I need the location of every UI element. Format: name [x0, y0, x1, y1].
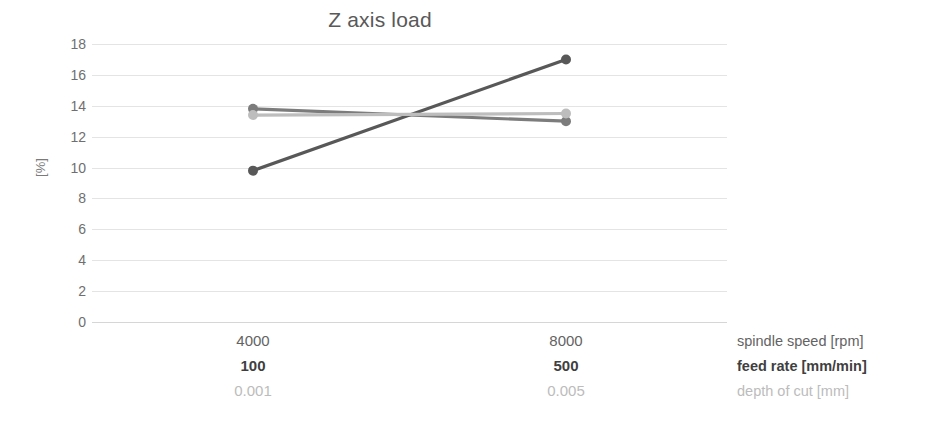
data-point-marker	[561, 54, 571, 64]
legend-item-1: spindle speed [rpm]	[737, 330, 927, 355]
x-axis-label-cell: 0.005	[486, 380, 646, 402]
chart-container: Z axis load [%] 181614121086420 40008000…	[0, 0, 930, 429]
y-axis-tick-label: 12	[52, 130, 86, 144]
plot-area	[92, 44, 727, 322]
y-axis-tick-labels: 181614121086420	[52, 0, 86, 429]
gridline	[92, 322, 727, 323]
x-axis-category-labels: 400080001005000.0010.005	[92, 330, 727, 410]
x-axis-label-cell: 500	[486, 355, 646, 377]
legend: spindle speed [rpm]feed rate [mm/min]dep…	[737, 330, 927, 410]
y-axis-tick-label: 10	[52, 161, 86, 175]
y-axis-tick-label: 0	[52, 315, 86, 329]
y-axis-tick-label: 18	[52, 37, 86, 51]
y-axis-tick-label: 16	[52, 68, 86, 82]
y-axis-tick-label: 4	[52, 253, 86, 267]
x-axis-label-row: 40008000	[92, 330, 727, 355]
data-point-marker	[561, 109, 571, 119]
data-point-marker	[248, 110, 258, 120]
legend-item-3: depth of cut [mm]	[737, 380, 927, 405]
data-point-marker	[248, 166, 258, 176]
y-axis-title: [%]	[33, 146, 48, 190]
y-axis-tick-label: 2	[52, 284, 86, 298]
series-layer	[92, 44, 727, 322]
legend-item-2: feed rate [mm/min]	[737, 355, 927, 380]
series-line	[253, 114, 566, 116]
x-axis-label-cell: 0.001	[173, 380, 333, 402]
x-axis-label-row: 100500	[92, 355, 727, 380]
y-axis-tick-label: 8	[52, 191, 86, 205]
x-axis-label-cell: 8000	[486, 330, 646, 352]
x-axis-label-cell: 100	[173, 355, 333, 377]
x-axis-label-cell: 4000	[173, 330, 333, 352]
y-axis-tick-label: 6	[52, 222, 86, 236]
y-axis-tick-label: 14	[52, 99, 86, 113]
x-axis-label-row: 0.0010.005	[92, 380, 727, 405]
chart-title: Z axis load	[0, 8, 760, 32]
